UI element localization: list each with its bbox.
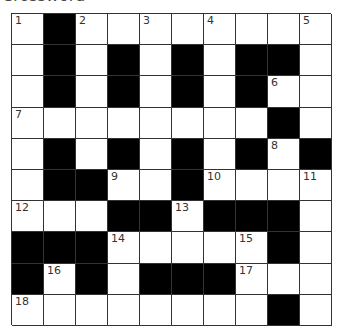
answer-cell[interactable]: 12 xyxy=(12,201,44,232)
answer-cell[interactable] xyxy=(172,108,204,139)
answer-cell[interactable]: 5 xyxy=(300,14,332,45)
answer-cell[interactable]: 10 xyxy=(204,170,236,201)
answer-cell[interactable] xyxy=(12,139,44,170)
answer-cell[interactable]: 14 xyxy=(108,232,140,263)
black-square xyxy=(236,139,268,170)
answer-cell[interactable] xyxy=(140,45,172,76)
answer-cell[interactable] xyxy=(268,264,300,295)
answer-cell[interactable] xyxy=(76,76,108,107)
answer-cell[interactable] xyxy=(140,295,172,326)
answer-cell[interactable] xyxy=(204,108,236,139)
clue-number: 11 xyxy=(303,171,317,183)
answer-cell[interactable] xyxy=(76,108,108,139)
answer-cell[interactable] xyxy=(140,108,172,139)
answer-cell[interactable] xyxy=(268,14,300,45)
answer-cell[interactable] xyxy=(300,201,332,232)
black-square xyxy=(204,264,236,295)
black-square xyxy=(12,264,44,295)
answer-cell[interactable] xyxy=(108,14,140,45)
answer-cell[interactable] xyxy=(172,232,204,263)
answer-cell[interactable] xyxy=(108,295,140,326)
answer-cell[interactable] xyxy=(204,139,236,170)
answer-cell[interactable] xyxy=(12,170,44,201)
clue-number: 18 xyxy=(15,296,29,308)
clue-number: 15 xyxy=(239,233,253,245)
answer-cell[interactable] xyxy=(108,108,140,139)
answer-cell[interactable]: 9 xyxy=(108,170,140,201)
black-square xyxy=(44,45,76,76)
answer-cell[interactable] xyxy=(76,295,108,326)
answer-cell[interactable] xyxy=(76,139,108,170)
answer-cell[interactable]: 15 xyxy=(236,232,268,263)
black-square xyxy=(172,170,204,201)
answer-cell[interactable]: 11 xyxy=(300,170,332,201)
black-square xyxy=(44,14,76,45)
black-square xyxy=(12,232,44,263)
clue-number: 9 xyxy=(111,171,118,183)
answer-cell[interactable] xyxy=(268,170,300,201)
answer-cell[interactable]: 1 xyxy=(12,14,44,45)
black-square xyxy=(300,139,332,170)
answer-cell[interactable] xyxy=(300,108,332,139)
answer-cell[interactable] xyxy=(140,139,172,170)
answer-cell[interactable]: 8 xyxy=(268,139,300,170)
answer-cell[interactable] xyxy=(236,295,268,326)
black-square xyxy=(108,139,140,170)
answer-cell[interactable] xyxy=(108,264,140,295)
clue-number: 10 xyxy=(207,171,221,183)
puzzle-title: Crossword xyxy=(2,0,85,4)
black-square xyxy=(76,264,108,295)
answer-cell[interactable]: 13 xyxy=(172,201,204,232)
clue-number: 14 xyxy=(111,233,125,245)
clue-number: 3 xyxy=(143,15,150,27)
answer-cell[interactable] xyxy=(300,45,332,76)
black-square xyxy=(140,264,172,295)
answer-cell[interactable] xyxy=(236,14,268,45)
answer-cell[interactable] xyxy=(140,76,172,107)
answer-cell[interactable] xyxy=(140,232,172,263)
answer-cell[interactable] xyxy=(76,45,108,76)
answer-cell[interactable] xyxy=(172,295,204,326)
answer-cell[interactable] xyxy=(300,295,332,326)
answer-cell[interactable] xyxy=(236,170,268,201)
answer-cell[interactable] xyxy=(12,45,44,76)
answer-cell[interactable]: 2 xyxy=(76,14,108,45)
answer-cell[interactable] xyxy=(140,170,172,201)
answer-cell[interactable] xyxy=(44,201,76,232)
clue-number: 6 xyxy=(271,77,278,89)
answer-cell[interactable]: 17 xyxy=(236,264,268,295)
answer-cell[interactable] xyxy=(300,76,332,107)
answer-cell[interactable]: 3 xyxy=(140,14,172,45)
black-square xyxy=(44,76,76,107)
answer-cell[interactable] xyxy=(204,76,236,107)
black-square xyxy=(44,170,76,201)
black-square xyxy=(268,201,300,232)
answer-cell[interactable] xyxy=(44,295,76,326)
answer-cell[interactable] xyxy=(76,201,108,232)
black-square xyxy=(172,264,204,295)
answer-cell[interactable]: 7 xyxy=(12,108,44,139)
answer-cell[interactable] xyxy=(44,108,76,139)
answer-cell[interactable] xyxy=(300,232,332,263)
black-square xyxy=(108,201,140,232)
black-square xyxy=(204,201,236,232)
answer-cell[interactable] xyxy=(172,14,204,45)
black-square xyxy=(268,45,300,76)
answer-cell[interactable]: 6 xyxy=(268,76,300,107)
answer-cell[interactable] xyxy=(204,232,236,263)
answer-cell[interactable] xyxy=(300,264,332,295)
answer-cell[interactable] xyxy=(236,108,268,139)
clue-number: 16 xyxy=(47,265,61,277)
clue-number: 2 xyxy=(79,15,86,27)
answer-cell[interactable] xyxy=(12,76,44,107)
answer-cell[interactable] xyxy=(204,45,236,76)
black-square xyxy=(108,45,140,76)
black-square xyxy=(76,232,108,263)
black-square xyxy=(44,232,76,263)
crossword-grid: 123456789101112131415161718 xyxy=(11,13,331,325)
answer-cell[interactable] xyxy=(204,295,236,326)
answer-cell[interactable]: 16 xyxy=(44,264,76,295)
black-square xyxy=(44,139,76,170)
answer-cell[interactable]: 4 xyxy=(204,14,236,45)
answer-cell[interactable]: 18 xyxy=(12,295,44,326)
